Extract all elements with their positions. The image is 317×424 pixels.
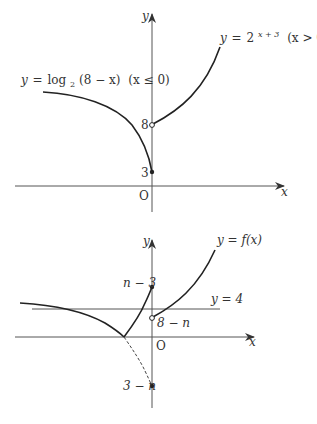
top-graph: x y O 8 3 y = log 2 (8 − x) (x ≤ 0) y = … xyxy=(15,9,317,212)
top-log-equation: y = log 2 (8 − x) (x ≤ 0) xyxy=(20,73,170,90)
top-filled-point-3 xyxy=(150,170,154,174)
bottom-origin-label: O xyxy=(156,339,166,353)
line-y-equals-4-label: y = 4 xyxy=(210,292,243,306)
diagram-canvas: x y O 8 3 y = log 2 (8 − x) (x ≤ 0) y = … xyxy=(0,0,317,424)
top-exp-equation: y = 2 x + 3 (x > 0) xyxy=(219,26,317,45)
top-label-3: 3 xyxy=(141,166,149,180)
bottom-reflected-curve xyxy=(124,287,152,337)
bottom-y-axis-label: y xyxy=(142,234,150,248)
bottom-right-curve xyxy=(153,250,215,317)
bottom-x-axis-label: x xyxy=(249,335,256,349)
top-open-point-8 xyxy=(150,123,155,128)
bottom-graph: x y O y = 4 n − 3 8 − n 3 − n y = f(x) xyxy=(15,233,262,408)
curve-f-label: y = f(x) xyxy=(216,233,262,247)
top-label-8: 8 xyxy=(141,118,149,132)
top-y-axis-label: y xyxy=(141,9,149,23)
label-n-minus-3: n − 3 xyxy=(123,276,156,290)
label-8-minus-n: 8 − n xyxy=(157,316,190,330)
top-log-curve xyxy=(43,92,152,172)
bottom-left-curve xyxy=(20,303,124,337)
top-origin-label: O xyxy=(139,189,149,203)
point-8-minus-n xyxy=(150,316,155,321)
label-3-minus-n: 3 − n xyxy=(123,379,156,393)
top-x-axis-label: x xyxy=(281,185,288,199)
